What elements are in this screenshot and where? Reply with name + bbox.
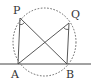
point-label-P: P	[13, 4, 21, 17]
angle-mark-Q	[64, 28, 69, 30]
point-label-Q: Q	[71, 8, 80, 21]
point-label-A: A	[10, 68, 20, 81]
point-label-B: B	[66, 68, 74, 81]
inscribed-angle-diagram: P Q A B	[0, 0, 91, 83]
segment-QB	[67, 23, 69, 64]
angle-mark-P	[20, 23, 25, 25]
